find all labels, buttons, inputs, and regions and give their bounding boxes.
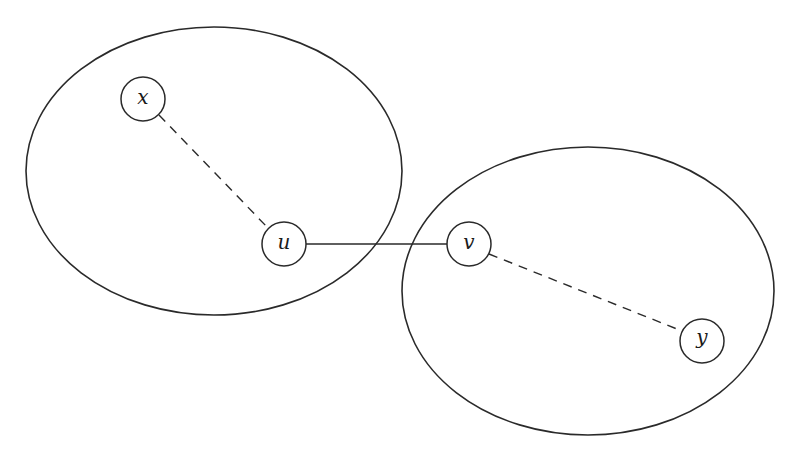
right-cluster-ellipse — [402, 147, 774, 435]
edge-x-u — [159, 115, 268, 228]
node-v: v — [447, 222, 491, 266]
edge-v-y — [489, 254, 682, 331]
node-x: x — [121, 77, 165, 121]
node-u-label: u — [278, 230, 291, 254]
left-cluster-ellipse — [26, 27, 402, 315]
graph-diagram: x u v y — [0, 0, 799, 458]
node-y-label: y — [695, 325, 708, 349]
node-u: u — [262, 222, 306, 266]
node-y: y — [680, 319, 724, 363]
node-x-label: x — [137, 85, 148, 109]
node-v-label: v — [463, 230, 475, 254]
